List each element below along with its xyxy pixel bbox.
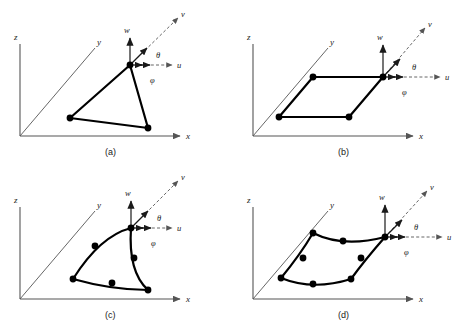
- rotation-label-phi: φ: [404, 247, 409, 257]
- rotation-label-phi: φ: [150, 75, 155, 85]
- rotation-label-phi: φ: [402, 87, 407, 97]
- element-node: [109, 280, 116, 287]
- axis-label-z: z: [13, 32, 18, 42]
- local-axes-d: w v u θ φ: [379, 182, 451, 257]
- element-node: [145, 125, 152, 132]
- element-node: [358, 255, 365, 262]
- local-axis-label-v: v: [181, 172, 185, 182]
- panel-caption: (d): [338, 310, 349, 320]
- rotation-label-theta: θ: [156, 50, 160, 60]
- finite-element-figure: z y x w v u θ φ (a): [0, 0, 466, 326]
- element-node: [276, 114, 283, 121]
- local-axes-b: w v u θ φ: [377, 19, 449, 97]
- axis-label-y: y: [329, 200, 334, 210]
- local-axis-label-v: v: [430, 182, 434, 192]
- axis-label-x: x: [418, 131, 423, 141]
- axis-label-y: y: [329, 37, 334, 47]
- axis-label-x: x: [185, 294, 190, 304]
- panel-c: z y x w v u θ φ (c): [13, 172, 190, 320]
- element-node: [127, 62, 134, 69]
- global-axes-d: z y x: [246, 195, 423, 304]
- local-axis-label-w: w: [379, 192, 385, 202]
- figure-canvas: z y x w v u θ φ (a): [0, 0, 466, 326]
- element-node: [310, 281, 317, 288]
- rotation-label-theta: θ: [414, 222, 418, 232]
- panel-caption: (b): [338, 147, 349, 157]
- local-axis-label-w: w: [125, 188, 131, 198]
- rotation-label-phi: φ: [151, 238, 156, 248]
- element-node: [346, 114, 353, 121]
- element-triangle-6node: [70, 225, 152, 294]
- local-axis-label-u: u: [445, 72, 449, 82]
- element-node: [300, 255, 307, 262]
- axis-label-z: z: [246, 32, 251, 42]
- element-quad-8node: [278, 230, 389, 288]
- global-axes-a: z y x: [13, 32, 190, 141]
- element-node: [70, 276, 77, 283]
- panel-d: z y x w v u θ φ: [246, 182, 451, 320]
- element-node: [145, 287, 152, 294]
- local-axis-label-u: u: [447, 232, 451, 242]
- axis-label-z: z: [246, 195, 251, 205]
- element-node: [348, 276, 355, 283]
- local-axis-label-u: u: [177, 223, 181, 233]
- global-axes-b: z y x: [246, 32, 423, 141]
- local-axis-label-w: w: [377, 32, 383, 42]
- axis-label-x: x: [185, 131, 190, 141]
- element-node: [278, 275, 285, 282]
- element-triangle-3node: [67, 62, 152, 132]
- element-node: [310, 74, 317, 81]
- element-quad-4node: [276, 74, 387, 121]
- rotation-label-theta: θ: [412, 62, 416, 72]
- element-node: [340, 238, 347, 245]
- element-node: [310, 230, 317, 237]
- local-axis-label-u: u: [177, 60, 181, 70]
- local-axis-label-v: v: [428, 19, 432, 29]
- element-node: [382, 234, 389, 241]
- axis-label-y: y: [96, 200, 101, 210]
- axis-label-z: z: [13, 195, 18, 205]
- global-axes-c: z y x: [13, 195, 190, 304]
- axis-label-x: x: [418, 294, 423, 304]
- panel-a: z y x w v u θ φ (a): [13, 9, 190, 157]
- element-node: [128, 225, 135, 232]
- axis-label-y: y: [96, 37, 101, 47]
- element-node: [131, 255, 138, 262]
- local-axis-label-v: v: [181, 9, 185, 19]
- local-axes-c: w v u θ φ: [125, 172, 185, 248]
- panel-b: z y x w v u θ φ (b): [246, 19, 449, 157]
- rotation-label-theta: θ: [157, 213, 161, 223]
- element-node: [92, 243, 99, 250]
- panel-caption: (a): [105, 147, 116, 157]
- panel-caption: (c): [105, 310, 116, 320]
- element-node: [67, 115, 74, 122]
- element-node: [380, 74, 387, 81]
- local-axis-label-w: w: [124, 25, 130, 35]
